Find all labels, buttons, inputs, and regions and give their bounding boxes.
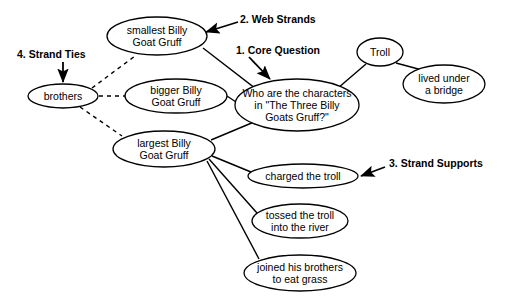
- annotation-arrow-web-strands: [206, 22, 238, 32]
- node-ellipse-core[interactable]: [235, 79, 359, 131]
- node-ellipse-bridge[interactable]: [403, 65, 485, 103]
- edge-bigger-to-core: [227, 96, 236, 102]
- annotation-label-strand-supports: 3. Strand Supports: [389, 157, 483, 169]
- annotation-label-strand-ties: 4. Strand Ties: [17, 48, 86, 60]
- node-ellipse-tossed[interactable]: [252, 204, 348, 238]
- node-ellipse-smallest[interactable]: [107, 17, 207, 55]
- tie-edge-brothers-to-largest: [80, 107, 122, 136]
- node-ellipse-charged[interactable]: [248, 164, 358, 188]
- edge-core-to-troll: [338, 64, 366, 88]
- node-ellipses-group: [28, 17, 485, 291]
- tie-edge-brothers-to-smallest: [92, 56, 135, 88]
- annotation-arrow-strand-supports: [361, 167, 385, 176]
- edge-largest-to-core: [211, 122, 254, 140]
- annotation-label-core-question: 1. Core Question: [236, 44, 320, 56]
- node-ellipse-brothers[interactable]: [28, 84, 98, 108]
- node-ellipse-joined[interactable]: [244, 255, 356, 291]
- edge-largest-to-tossed: [209, 159, 257, 213]
- annotation-label-web-strands: 2. Web Strands: [240, 13, 316, 25]
- story-web-diagram: smallest Billy Goat Gruffbigger Billy Go…: [0, 0, 513, 301]
- node-ellipse-troll[interactable]: [357, 38, 403, 66]
- node-ellipse-largest[interactable]: [113, 131, 215, 167]
- annotation-arrow-core-question: [249, 57, 270, 79]
- node-ellipse-bigger[interactable]: [125, 79, 227, 113]
